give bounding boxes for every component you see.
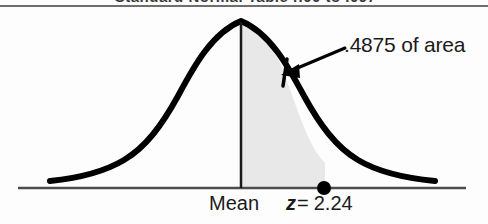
mean-axis-label: Mean xyxy=(209,192,259,215)
normal-distribution-figure: Standard Normal Table (.00 to .09) .4875… xyxy=(0,0,488,224)
z-value-label: z= 2.24 xyxy=(286,192,353,215)
z-equals-sign: = xyxy=(297,192,308,214)
z-variable-symbol: z xyxy=(286,192,297,214)
shaded-area-region xyxy=(241,21,325,188)
area-annotation-label: .4875 of area xyxy=(344,33,465,57)
z-numeric-value: 2.24 xyxy=(314,192,353,214)
